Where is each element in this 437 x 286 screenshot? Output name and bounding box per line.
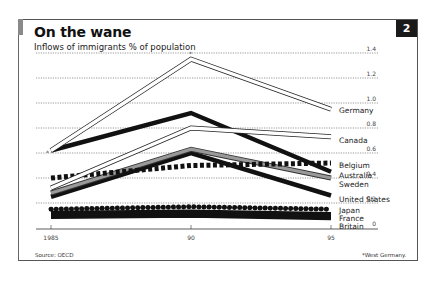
x-tick-label: 90 <box>187 234 195 241</box>
series-label-belgium: Belgium <box>339 161 370 170</box>
footnote-marker: * <box>46 149 49 156</box>
y-tick-label: 1.2 <box>366 70 376 77</box>
series-germany <box>51 59 331 150</box>
line-chart: 00.20.40.60.81.01.21.419859095GermanyCan… <box>0 0 437 286</box>
series-germany-outline <box>51 59 331 150</box>
series-label-canada: Canada <box>339 136 368 145</box>
series-label-germany: Germany <box>339 106 374 115</box>
series-japan <box>51 207 331 210</box>
y-tick-label: 0.8 <box>366 120 376 127</box>
source-note: Source: OECD <box>35 252 73 258</box>
footnote-marker: * <box>189 50 192 57</box>
y-tick-label: 1.4 <box>366 45 376 52</box>
series-britain <box>51 216 331 219</box>
series-label-britain: Britain <box>339 222 364 231</box>
x-tick-label: 1985 <box>43 234 58 241</box>
series-label-united-states: United States <box>339 195 390 204</box>
y-tick-label: 1.0 <box>366 95 376 102</box>
series-label-sweden: Sweden <box>339 180 369 189</box>
series-label-australia: Australia <box>339 171 372 180</box>
x-tick-label: 95 <box>327 234 335 241</box>
y-tick-label: 0 <box>372 220 376 227</box>
y-tick-label: 0.6 <box>366 145 376 152</box>
footnote: *West Germany. <box>362 252 406 258</box>
series-france <box>51 212 331 215</box>
